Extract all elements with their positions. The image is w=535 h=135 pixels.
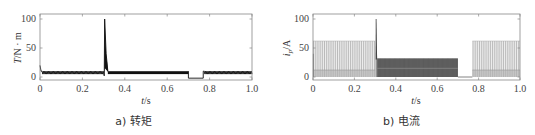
y-tick-label: 100: [294, 13, 309, 24]
torque-axis-ticks: [40, 14, 252, 80]
y-tick-label: 0: [304, 71, 309, 82]
x-tick-label: 0.2: [76, 83, 89, 94]
current-chart: 0 50 100 0 0.2 0.4 0.6 0.8 1.0 ip/A t/s: [268, 0, 535, 112]
current-chart-panel: 0 50 100 0 0.2 0.4 0.6 0.8 1.0 ip/A t/s …: [268, 0, 535, 135]
x-tick-label: 0: [311, 83, 316, 94]
x-tick-label: 0: [38, 83, 43, 94]
x-tick-label: 0.8: [472, 83, 485, 94]
torque-y-axis-label: T/N · m: [12, 32, 23, 64]
torque-plot-frame: [40, 14, 252, 80]
x-tick-label: 0.8: [203, 83, 216, 94]
y-tick-label: 50: [299, 42, 309, 53]
torque-chart-caption: a) 转矩: [0, 112, 267, 128]
current-plot-area: [313, 19, 520, 77]
y-tick-label: 100: [21, 13, 36, 24]
x-tick-label: 0.6: [431, 83, 444, 94]
torque-chart: 0 50 100 0 0.2 0.4 0.6 0.8 1.0 T/N · m t…: [0, 0, 267, 112]
x-tick-label: 1.0: [514, 83, 527, 94]
current-chart-caption: b) 电流: [268, 112, 535, 128]
y-tick-label: 50: [26, 42, 36, 53]
x-tick-label: 0.6: [161, 83, 174, 94]
torque-x-axis-label: t/s: [141, 95, 151, 106]
x-tick-label: 0.2: [348, 83, 361, 94]
torque-plot-area: [40, 19, 252, 78]
x-tick-label: 0.4: [390, 83, 403, 94]
y-tick-label: 0: [31, 71, 36, 82]
current-y-axis-label: ip/A: [281, 39, 294, 56]
torque-chart-panel: 0 50 100 0 0.2 0.4 0.6 0.8 1.0 T/N · m t…: [0, 0, 267, 135]
x-tick-label: 0.4: [119, 83, 132, 94]
current-x-axis-label: t/s: [411, 95, 421, 106]
x-tick-label: 1.0: [246, 83, 259, 94]
